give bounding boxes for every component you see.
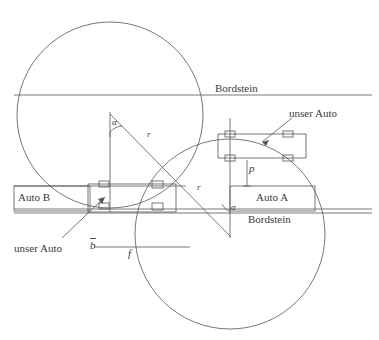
label-auto-b: Auto B xyxy=(18,192,50,203)
label-alpha-lower: α xyxy=(231,203,236,212)
car-upper-right-body xyxy=(218,134,306,158)
label-dim-b: b xyxy=(90,238,96,251)
label-alpha-upper: α xyxy=(112,118,117,127)
car-lower-left-wheel-fr xyxy=(152,181,163,188)
radius-diagonal-line xyxy=(110,114,231,237)
label-bordstein-top: Bordstein xyxy=(215,83,258,94)
parking-geometry-diagram: Bordstein Bordstein unser Auto unser Aut… xyxy=(0,0,379,340)
label-unser-auto-right: unser Auto xyxy=(289,108,337,119)
label-radius-lower: r xyxy=(197,183,201,192)
label-bordstein-bottom: Bordstein xyxy=(248,214,291,225)
label-auto-a: Auto A xyxy=(256,192,288,203)
label-radius-upper: r xyxy=(147,130,151,139)
label-dim-p: p xyxy=(249,163,255,174)
label-unser-auto-left: unser Auto xyxy=(14,243,62,254)
leader-unser-auto-left xyxy=(62,197,105,238)
label-dim-f: f xyxy=(128,248,131,259)
leader-unser-auto-right xyxy=(262,118,292,142)
diagram-canvas xyxy=(0,0,379,340)
alpha-arc-lower xyxy=(222,204,230,212)
